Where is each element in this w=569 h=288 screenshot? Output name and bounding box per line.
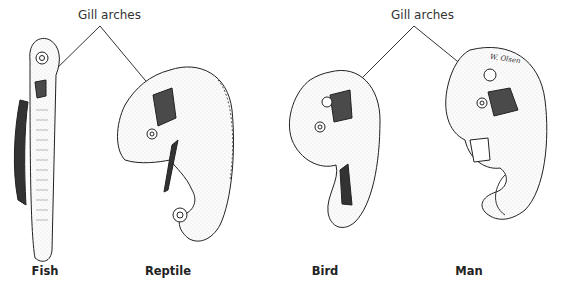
label-reptile: Reptile [145, 264, 191, 278]
gill-arches-callout-left: Gill arches [78, 8, 141, 22]
gill-arches-callout-right: Gill arches [391, 8, 454, 22]
label-man: Man [455, 264, 482, 278]
label-fish: Fish [32, 264, 59, 278]
reptile-embryo [118, 67, 234, 241]
human-embryo [446, 47, 547, 219]
label-bird: Bird [312, 264, 339, 278]
fish-embryo [14, 38, 59, 261]
embryo-diagram [0, 0, 569, 288]
bird-embryo [289, 70, 380, 227]
